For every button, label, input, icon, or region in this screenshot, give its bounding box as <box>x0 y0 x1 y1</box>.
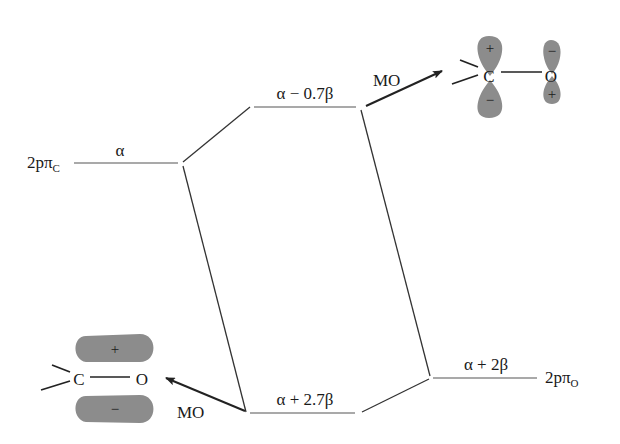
bonding-bottom-sign: − <box>111 401 119 417</box>
antibonding-mo-level: α − 0.7β <box>254 84 356 107</box>
oxygen-atom-label: O <box>136 370 148 389</box>
bonding-mo-level: α + 2.7β <box>250 390 355 413</box>
carbon-ao-energy: α <box>116 141 125 160</box>
c-substituent-bond-lower <box>452 75 478 84</box>
bonding-orbital-picture: + − C O <box>41 334 154 423</box>
antibonding-arrow-label: MO <box>373 71 400 90</box>
carbon-bottom-sign: − <box>486 92 494 108</box>
o-to-antibonding-line <box>361 110 430 376</box>
c-to-bonding-line <box>183 166 246 412</box>
carbon-ao-level: 2pπC α <box>27 141 178 174</box>
c-substituent-bond-upper <box>52 365 70 372</box>
c-substituent-bond-upper <box>460 60 478 67</box>
oxygen-atom-label: O <box>545 67 557 86</box>
mo-diagram: 2pπC α α − 0.7β α + 2.7β α + 2β 2pπO MO … <box>0 0 620 444</box>
bonding-mo-energy: α + 2.7β <box>277 390 334 409</box>
bonding-top-sign: + <box>111 341 119 357</box>
oxygen-bottom-sign: + <box>548 86 556 102</box>
antibonding-mo-arrow-group: MO <box>366 71 442 106</box>
correlation-lines <box>183 107 430 412</box>
antibonding-mo-energy: α − 0.7β <box>277 84 334 103</box>
carbon-top-sign: + <box>486 40 494 56</box>
bonding-mo-arrow-group: MO <box>166 378 245 422</box>
oxygen-ao-level: α + 2β 2pπO <box>433 355 579 389</box>
carbon-atom-label: C <box>483 67 494 86</box>
oxygen-top-sign: − <box>548 43 556 59</box>
antibonding-orbital-picture: + − − + C O <box>452 36 561 118</box>
o-to-bonding-line <box>362 379 429 412</box>
bonding-arrow-label: MO <box>177 403 204 422</box>
oxygen-ao-energy: α + 2β <box>464 355 508 374</box>
oxygen-ao-label: 2pπO <box>545 368 579 389</box>
carbon-ao-label: 2pπC <box>27 153 60 174</box>
carbon-atom-label: C <box>73 370 84 389</box>
c-substituent-bond-lower <box>41 381 70 390</box>
c-to-antibonding-line <box>183 107 250 162</box>
